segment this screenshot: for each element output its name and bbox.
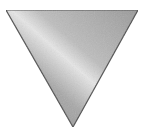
triangle-down-icon bbox=[0, 0, 141, 135]
inverted-triangle-icon bbox=[0, 0, 141, 135]
